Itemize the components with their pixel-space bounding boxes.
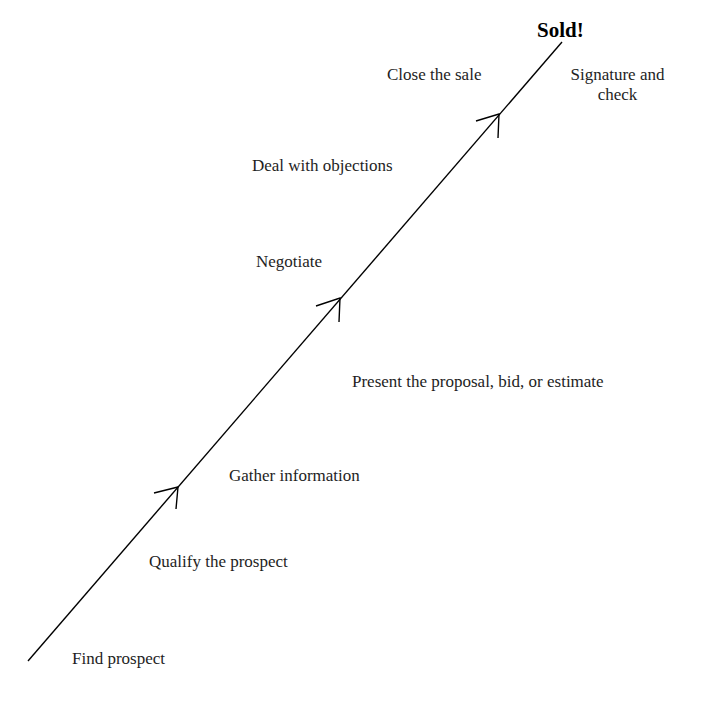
sold-title: Sold!: [537, 20, 584, 40]
arrow-icon: [316, 298, 340, 322]
step-present-proposal: Present the proposal, bid, or estimate: [352, 372, 604, 392]
outcome-label: Signature and check: [560, 65, 675, 105]
step-find-prospect: Find prospect: [72, 649, 165, 669]
arrow-icon: [476, 114, 499, 138]
outcome-line-2: check: [560, 85, 675, 105]
step-close-the-sale: Close the sale: [387, 65, 481, 85]
step-deal-with-objections: Deal with objections: [252, 156, 393, 176]
step-qualify-prospect: Qualify the prospect: [149, 552, 288, 572]
sales-path-line: [0, 0, 715, 717]
outcome-line-1: Signature and: [560, 65, 675, 85]
step-gather-information: Gather information: [229, 466, 360, 486]
step-negotiate: Negotiate: [256, 252, 322, 272]
